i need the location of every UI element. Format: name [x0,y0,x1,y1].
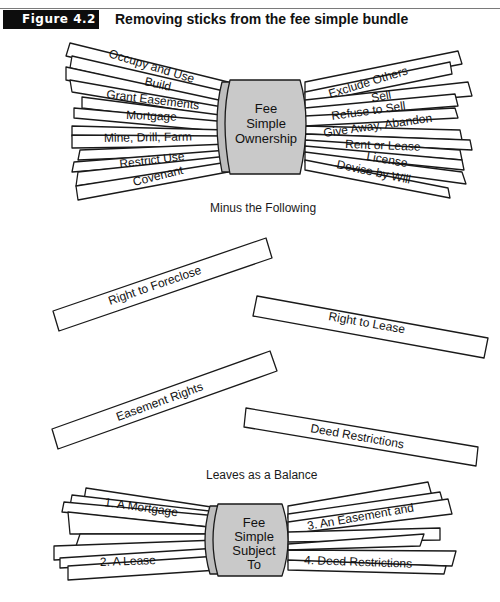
band-line-2: Simple [246,116,286,131]
caption-leaves: Leaves as a Balance [206,468,317,482]
band-line-3: Ownership [235,131,297,146]
stick-label-mine: Mine, Drill, Farm [104,129,192,145]
diagram-canvas: Fee Simple Ownership Occupy and Use Buil… [0,0,500,602]
band-line-1: Fee [243,515,265,530]
band-line-1: Fee [255,101,277,116]
caption-minus: Minus the Following [210,201,316,215]
stick-label-mortgage: Mortgage [126,108,177,124]
band-line-2: Simple [234,529,274,544]
band-line-3: Subject [232,543,276,558]
stick-label-a-lease: 2. A Lease [100,553,157,569]
band-line-4: To [247,557,261,572]
removed-label-deed: Deed Restrictions [309,421,405,451]
